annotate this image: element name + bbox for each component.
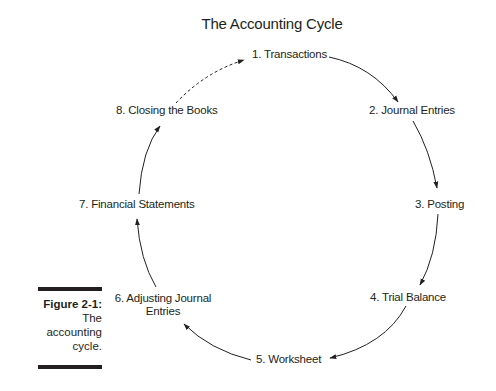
caption-line-2: accounting [38, 325, 102, 339]
arrow-8-to-1 [176, 60, 244, 103]
figure-caption: Figure 2-1: The accounting cycle. [38, 297, 102, 353]
arrow-2-to-3 [413, 121, 437, 188]
caption-line-3: cycle. [38, 339, 102, 353]
caption-rule-bottom [38, 365, 102, 369]
node-trial-balance: 4. Trial Balance [370, 291, 446, 303]
node-posting: 3. Posting [415, 198, 464, 210]
arrow-3-to-4 [420, 214, 438, 285]
node-financial-statements: 7. Financial Statements [79, 198, 195, 210]
figure-number: Figure 2-1: [38, 297, 102, 311]
arrow-4-to-5 [330, 306, 406, 358]
caption-line-1: The [38, 311, 102, 325]
node-adjusting-line1: 6. Adjusting Journal [115, 292, 211, 304]
node-adjusting-line2: Entries [146, 305, 180, 317]
node-transactions: 1. Transactions [252, 48, 327, 60]
arrow-6-to-7 [137, 219, 156, 287]
arrow-5-to-6 [184, 324, 251, 360]
arrow-7-to-8 [139, 126, 160, 194]
node-adjusting-journal-entries: 6. Adjusting Journal Entries [108, 292, 218, 318]
arrow-1-to-2 [329, 57, 398, 102]
node-journal-entries: 2. Journal Entries [369, 104, 455, 116]
node-worksheet: 5. Worksheet [256, 353, 321, 365]
node-closing-the-books: 8. Closing the Books [116, 104, 217, 116]
caption-rule-top [38, 287, 102, 291]
